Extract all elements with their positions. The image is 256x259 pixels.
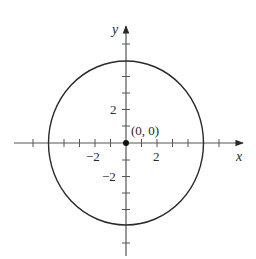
x-axis-label: x [235, 149, 243, 164]
x-tick-label-pos2: 2 [153, 149, 160, 164]
coordinate-plane-figure: (0, 0) x y −2 2 2 −2 [0, 0, 256, 259]
y-axis-label: y [110, 22, 119, 37]
y-tick-label-pos2: 2 [110, 102, 117, 117]
origin-point [123, 140, 129, 146]
x-tick-label-neg2: −2 [86, 149, 100, 164]
y-tick-label-neg2: −2 [102, 169, 116, 184]
center-label: (0, 0) [131, 123, 159, 138]
